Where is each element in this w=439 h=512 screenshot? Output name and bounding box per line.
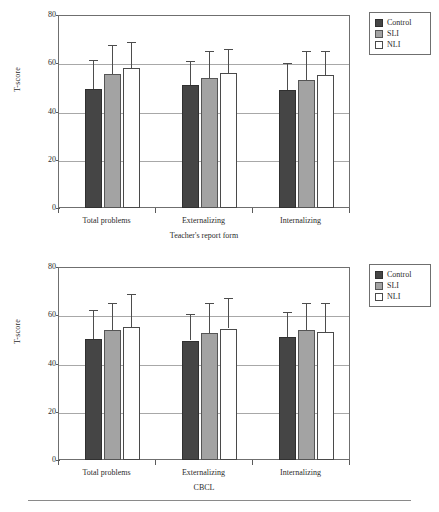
y-tick-label: 20 (26, 156, 56, 164)
x-tick-mark (349, 460, 350, 465)
legend-item-sli: SLI (375, 28, 426, 39)
x-category-label: Total problems (58, 468, 155, 477)
y-tick-label: 0 (26, 456, 56, 464)
x-tick-mark (252, 208, 253, 213)
y-axis-ticks: 80 60 40 20 0 (20, 267, 56, 460)
legend-label: NLI (387, 40, 400, 49)
gridline (59, 316, 349, 317)
figure-cbcl: 80 60 40 20 0 T-score (0, 252, 439, 500)
legend-swatch-icon (375, 30, 383, 38)
y-axis-title: T-score (14, 319, 22, 344)
x-category-label: Total problems (58, 216, 155, 225)
gridline (59, 161, 349, 162)
legend-swatch-icon (375, 282, 383, 290)
legend-label: Control (387, 18, 411, 27)
x-category-label: Internalizing (252, 216, 349, 225)
x-tick-mark (349, 208, 350, 213)
legend-item-control: Control (375, 17, 426, 28)
x-tick-mark (155, 460, 156, 465)
x-tick-mark (58, 460, 59, 465)
figure-teachers-report-form: 80 60 40 20 0 T-score (0, 0, 439, 248)
legend-label: SLI (387, 281, 399, 290)
legend-item-sli: SLI (375, 280, 426, 291)
legend-swatch-icon (375, 41, 383, 49)
y-tick-label: 0 (26, 204, 56, 212)
legend: Control SLI NLI (369, 264, 431, 307)
legend-label: NLI (387, 292, 400, 301)
y-tick-label: 40 (26, 360, 56, 368)
y-tick-label: 40 (26, 108, 56, 116)
y-tick-label: 60 (26, 59, 56, 67)
x-category-label: Externalizing (155, 468, 252, 477)
gridline (59, 365, 349, 366)
legend-item-nli: NLI (375, 291, 426, 302)
x-category-label: Externalizing (155, 216, 252, 225)
y-tick-label: 20 (26, 408, 56, 416)
x-tick-mark (155, 208, 156, 213)
legend-item-control: Control (375, 269, 426, 280)
y-axis-ticks: 80 60 40 20 0 (20, 15, 56, 208)
gridline (59, 413, 349, 414)
y-tick-label: 80 (26, 263, 56, 271)
x-axis-title: CBCL (58, 483, 350, 492)
y-tick-label: 60 (26, 311, 56, 319)
legend-label: SLI (387, 29, 399, 38)
plot-area (58, 15, 350, 208)
x-axis-ticks (58, 208, 350, 214)
legend-swatch-icon (375, 293, 383, 301)
y-axis-title: T-score (14, 67, 22, 92)
legend-swatch-icon (375, 19, 383, 27)
x-category-label: Internalizing (252, 468, 349, 477)
legend-item-nli: NLI (375, 39, 426, 50)
x-tick-mark (58, 208, 59, 213)
x-tick-mark (252, 460, 253, 465)
y-tick-label: 80 (26, 11, 56, 19)
footer-divider (28, 500, 411, 501)
gridline (59, 113, 349, 114)
plot-area (58, 267, 350, 460)
x-axis-ticks (58, 460, 350, 466)
legend-label: Control (387, 270, 411, 279)
legend: Control SLI NLI (369, 12, 431, 55)
legend-swatch-icon (375, 271, 383, 279)
x-axis-title: Teacher's report form (58, 231, 350, 240)
gridline (59, 64, 349, 65)
